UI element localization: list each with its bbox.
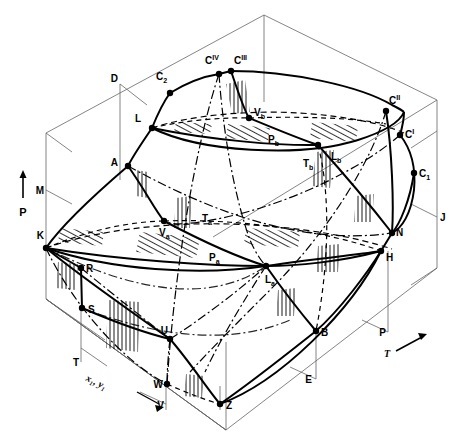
curve-Z-B: [220, 331, 316, 404]
curve-U-La-dashed: [170, 266, 266, 339]
point-label-CIV: CIV: [205, 54, 219, 66]
point-label-H: H: [386, 252, 393, 263]
point-marker-Z: [217, 401, 223, 407]
point-label-base-E: E: [305, 374, 312, 385]
guide-T-tick: [81, 348, 107, 366]
hatch-CIII-Vb: [226, 80, 250, 114]
tiecurve-Cdbl-N: [386, 111, 393, 233]
point-label-CIII: CIII: [234, 54, 247, 66]
point-marker-Lb: [315, 142, 321, 148]
hatch-Ta-left: [174, 196, 192, 228]
hatch-W-Z: [184, 374, 204, 398]
point-label-sub-Va: a: [166, 233, 170, 240]
point-label-D: D: [111, 73, 118, 84]
point-label-base-M: M: [36, 185, 44, 196]
point-label-base-CIII: C: [234, 55, 241, 66]
hatch-Pb-left: [226, 124, 270, 142]
point-label-L: L: [135, 113, 141, 124]
guide-right-tick-lower: [411, 268, 437, 285]
point-label-sup-Csgl: I: [412, 128, 414, 135]
point-marker-Cdbl: [383, 108, 389, 114]
point-label-T: T: [73, 357, 79, 368]
point-label-E: E: [305, 374, 312, 385]
point-label-P: P: [379, 327, 386, 338]
point-marker-La: [263, 263, 269, 269]
point-label-N: N: [396, 227, 403, 238]
point-marker-K: [43, 245, 49, 251]
point-label-M: M: [36, 185, 44, 196]
point-label-Csgl: CI: [405, 128, 414, 140]
point-marker-N: [389, 230, 395, 236]
upper-loop-back-arc: [231, 71, 404, 112]
guide-D-tick: [120, 84, 147, 105]
surface-curve-C2-L: [152, 93, 170, 128]
point-label-base-W: W: [154, 379, 164, 390]
point-marker-R: [78, 265, 84, 271]
point-label-C1: C1: [419, 168, 430, 181]
point-label-R: R: [86, 263, 94, 274]
point-label-sup-Cdbl: II: [396, 94, 400, 101]
axis-p-label: P: [19, 206, 26, 218]
hatch-C1-right: [354, 194, 374, 222]
point-label-sub-C1: 1: [426, 174, 430, 181]
axis-xy-arrow-shaft: [137, 392, 159, 404]
figure-canvas: DC2CIVCIIILVbCIICIC1AMLbKVaNJHLaRSTUWVZB…: [0, 0, 462, 446]
point-label-base-CIV: C: [205, 55, 212, 66]
point-label-Cdbl: CII: [389, 94, 400, 106]
point-marker-Vb: [246, 115, 252, 121]
guide-J-tick: [411, 204, 437, 217]
tiecurve-La-to-Z-dashdot: [205, 266, 266, 372]
point-marker-S: [79, 305, 85, 311]
point-marker-CIV: [216, 71, 222, 77]
box-edge-bottom-right: [226, 268, 437, 430]
surface-curve-L-A: [128, 128, 152, 166]
point-label-Z: Z: [226, 400, 232, 411]
point-marker-C1: [411, 170, 417, 176]
curve-Z-H-outer: [220, 251, 381, 404]
point-label-base-B: B: [321, 327, 328, 338]
point-label-sub-La: a: [271, 280, 275, 287]
point-label-base-C1: C: [419, 168, 426, 179]
axis-xy-label: x₁, y₁: [84, 372, 109, 392]
hatch-S-big: [106, 300, 140, 352]
point-label-base-J: J: [440, 212, 446, 223]
region-label-Pa: Pa: [209, 252, 220, 265]
axis-t-label: T: [384, 348, 391, 359]
point-label-sup-CIII: III: [241, 54, 247, 61]
point-label-base-T: T: [73, 357, 79, 368]
tiecurve-CIV-down-to-W: [167, 74, 219, 384]
guide-E-tick: [290, 367, 316, 379]
region-label-Pb: Pb: [268, 134, 279, 147]
point-label-sub-Lb: b: [337, 157, 341, 164]
guide-M-tick: [46, 190, 72, 204]
point-label-A: A: [111, 157, 118, 168]
box-wireframe: [46, 15, 437, 430]
point-marker-B: [313, 328, 319, 334]
guide-floor-left: [46, 299, 105, 340]
point-marker-A: [125, 163, 131, 169]
point-label-base-C2: C: [156, 71, 163, 82]
point-label-base-K: K: [37, 230, 45, 241]
point-label-base-N: N: [396, 227, 403, 238]
hatch-H-left: [316, 244, 340, 272]
point-marker-CIII: [228, 68, 234, 74]
axis-t-arrow-shaft: [396, 337, 422, 351]
region-label-Tb: Tb: [303, 158, 313, 171]
axis-p-group: P: [19, 170, 26, 218]
point-label-S: S: [88, 304, 95, 315]
point-label-base-P: P: [379, 327, 386, 338]
point-label-J: J: [440, 212, 446, 223]
point-label-base-L: L: [135, 113, 141, 124]
axis-t-group: T: [384, 333, 427, 359]
point-label-base-S: S: [88, 304, 95, 315]
point-marker-Va: [161, 218, 167, 224]
hatch-K-R: [56, 262, 78, 290]
point-label-sup-CIV: IV: [212, 54, 219, 61]
point-label-base-A: A: [111, 157, 118, 168]
point-label-K: K: [37, 230, 45, 241]
hatch-La-B: [276, 288, 296, 316]
point-label-base-Z: Z: [226, 400, 232, 411]
point-label-B: B: [321, 327, 328, 338]
axis-xy-group: x₁, y₁: [84, 372, 164, 412]
point-label-base-Cdbl: C: [389, 95, 396, 106]
